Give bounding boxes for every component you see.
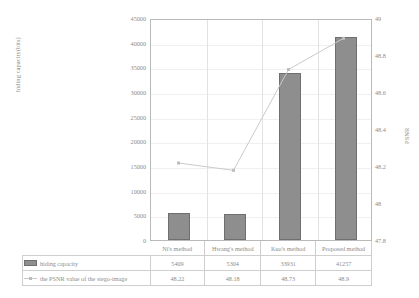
category-header-kuo: Kuo's method: [261, 241, 316, 256]
left-tick-40000: 40000: [102, 41, 146, 47]
table-header-row: Ni's method Hwang's method Kuo's method …: [23, 241, 372, 256]
chart-figure: hiding capacity(bits) PSNR 45000 40000 3…: [0, 0, 419, 298]
legend-label-psnr: the PSNR value of the stego-image: [40, 275, 127, 282]
left-axis-title: hiding capacity(bits): [14, 37, 21, 92]
table-row: hiding capacity 5409 5304 33931 41257: [23, 256, 372, 271]
value-hiding-capacity-ni: 5409: [150, 256, 205, 271]
table-row: the PSNR value of the stego-image 48.22 …: [23, 271, 372, 286]
right-tick-48-2: 48.2: [375, 164, 386, 170]
left-tick-25000: 25000: [102, 115, 146, 121]
right-tick-48-4: 48.4: [375, 127, 386, 133]
plot-area: [150, 19, 372, 241]
psnr-marker-hwang: [232, 169, 235, 172]
left-tick-10000: 10000: [102, 189, 146, 195]
category-header-hwang: Hwang's method: [205, 241, 261, 256]
left-tick-45000: 45000: [102, 16, 146, 22]
bar-swatch-icon: [24, 260, 37, 266]
left-tick-30000: 30000: [102, 90, 146, 96]
psnr-polyline: [179, 38, 344, 170]
line-marker-icon: [24, 275, 37, 281]
right-tick-49: 49: [375, 16, 381, 22]
right-tick-48-8: 48.8: [375, 53, 386, 59]
right-tick-48: 48: [375, 201, 381, 207]
left-tick-35000: 35000: [102, 65, 146, 71]
right-axis-ticks: 49 48.8 48.6 48.4 48.2 48 47.8: [375, 19, 415, 241]
legend-cell-hiding-capacity: hiding capacity: [23, 256, 151, 271]
category-header-ni: Ni's method: [150, 241, 205, 256]
psnr-marker-proposed: [342, 37, 345, 40]
psnr-marker-ni: [177, 162, 180, 165]
category-header-proposed: Proposed method: [316, 241, 372, 256]
left-tick-20000: 20000: [102, 139, 146, 145]
right-tick-47-8: 47.8: [375, 238, 386, 244]
table-corner-cell: [23, 241, 151, 256]
value-psnr-ni: 48.22: [150, 271, 205, 286]
left-tick-15000: 15000: [102, 164, 146, 170]
psnr-line-series: [151, 20, 371, 240]
legend-label-hiding-capacity: hiding capacity: [40, 260, 78, 267]
value-hiding-capacity-kuo: 33931: [261, 256, 316, 271]
value-hiding-capacity-proposed: 41257: [316, 256, 372, 271]
legend-cell-psnr: the PSNR value of the stego-image: [23, 271, 151, 286]
value-psnr-proposed: 48.9: [316, 271, 372, 286]
right-tick-48-6: 48.6: [375, 90, 386, 96]
value-hiding-capacity-hwang: 5304: [205, 256, 261, 271]
left-axis-ticks: 45000 40000 35000 30000 25000 20000 1500…: [100, 19, 146, 241]
value-psnr-hwang: 48.18: [205, 271, 261, 286]
left-tick-5000: 5000: [102, 213, 146, 219]
psnr-marker-kuo: [287, 68, 290, 71]
value-psnr-kuo: 48.73: [261, 271, 316, 286]
data-table: Ni's method Hwang's method Kuo's method …: [22, 241, 372, 286]
